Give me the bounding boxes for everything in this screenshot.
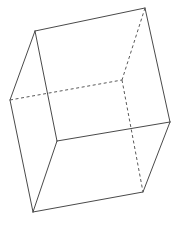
cube-face-fill: [10, 8, 170, 212]
figure-canvas: [0, 0, 177, 232]
cube-wireframe-svg: [0, 0, 177, 232]
